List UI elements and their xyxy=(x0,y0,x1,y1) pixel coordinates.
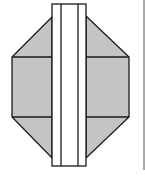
diagram-canvas xyxy=(0,0,145,180)
left-octagon-half xyxy=(12,17,52,158)
vertical-strip xyxy=(52,4,86,166)
right-octagon-half xyxy=(86,16,129,158)
